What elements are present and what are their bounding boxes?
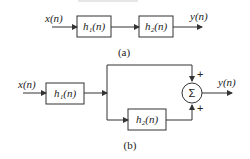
top-bar-artifact [78,0,138,2]
block-h2-a-label: h₂(n) [145,20,167,33]
diagram-a: x(n) h₁(n) h₂(n) y(n) (a) [44,10,208,59]
block-h1-b-label: h₁(n) [54,87,76,100]
input-label-a: x(n) [44,12,63,25]
diagram-b: x(n) h₁(n) h₂(n) Σ + + y(n) (b) [17,65,236,152]
input-label-b: x(n) [17,78,36,91]
output-label-a: y(n) [189,10,208,23]
output-label-b: y(n) [217,76,236,89]
plus-top: + [197,68,203,80]
caption-b: (b) [124,139,137,152]
sigma-symbol: Σ [189,87,196,99]
caption-a: (a) [118,46,131,59]
plus-bottom: + [197,102,203,114]
block-h1-a-label: h₁(n) [83,20,105,33]
block-diagram: x(n) h₁(n) h₂(n) y(n) (a) x(n) h₁(n) h₂(… [0,0,250,159]
block-h2-b-label: h₂(n) [136,113,158,126]
